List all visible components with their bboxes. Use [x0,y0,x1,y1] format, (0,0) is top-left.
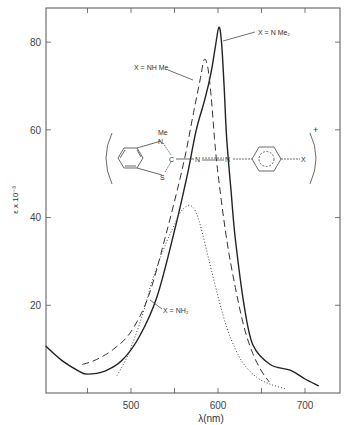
struct-n3-label: N [225,156,230,163]
struct-n1-label: N [158,138,163,145]
right-bracket [310,133,316,184]
struct-s-label: S [160,174,165,181]
leader-nhme [168,70,193,80]
series-nme2-line [46,27,319,386]
y-tick-20: 20 [30,300,42,311]
phenyl-ring [252,147,281,171]
structure-labels: Me N C S N N X + [158,125,318,181]
annotation-nh2: X = NH₂ [163,307,189,314]
plot-frame [46,8,340,393]
annotation-nme2: X = N Me₂ [258,29,290,36]
y-tick-40: 40 [30,212,42,223]
absorption-spectrum-chart: 500 600 700 20 40 60 80 λ(nm) ε x 10⁻³ X… [0,0,347,425]
struct-charge-label: + [313,125,318,135]
struct-x-label: X [301,156,306,163]
axis-ticks [46,8,340,393]
annotation-nhme: X = NH Me [134,64,169,71]
x-axis-title: λ(nm) [198,413,224,424]
struct-me-label: Me [158,129,168,136]
series-nh2-line [117,205,285,388]
struct-n2-label: N [195,156,200,163]
benzo-ring [118,148,143,168]
x-tick-500: 500 [123,400,140,411]
x-tick-600: 600 [210,400,227,411]
y-tick-80: 80 [30,37,42,48]
left-bracket [106,133,112,184]
leader-nme2 [223,32,255,41]
y-axis-title: ε x 10⁻³ [11,186,20,214]
chemical-structure-inset [106,133,316,184]
y-tick-60: 60 [30,125,42,136]
series-nhme-line [82,59,269,382]
struct-c-label: C [169,156,174,163]
x-tick-700: 700 [297,400,314,411]
